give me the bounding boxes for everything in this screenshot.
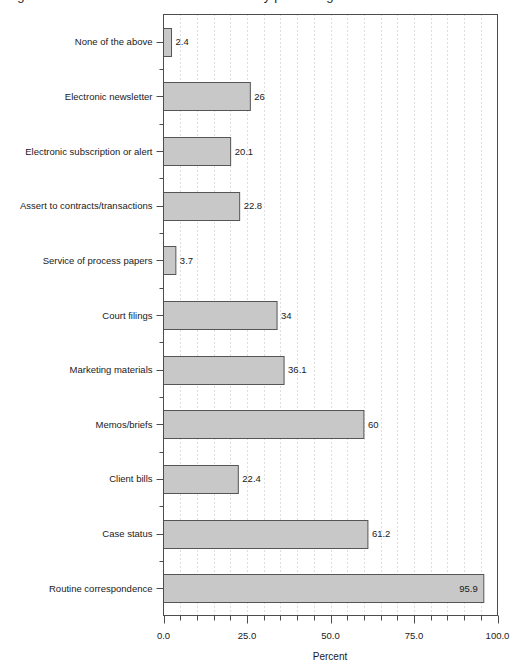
x-axis: 0.025.050.075.0100.0	[157, 616, 510, 641]
x-tick-label: 100.0	[486, 630, 510, 641]
bar	[164, 29, 172, 57]
bar	[164, 521, 368, 549]
category-label: Electronic subscription or alert	[25, 146, 153, 157]
category-label: None of the above	[75, 36, 153, 47]
bar	[164, 575, 484, 603]
bar	[164, 466, 239, 494]
bar	[164, 411, 364, 439]
bar-value-label: 2.4	[176, 36, 189, 47]
bar-value-label: 22.8	[244, 200, 262, 211]
bar	[164, 193, 240, 221]
category-label: Marketing materials	[70, 364, 153, 375]
y-axis-category-labels: None of the aboveElectronic newsletterEl…	[20, 36, 153, 593]
bar-value-label: 20.1	[235, 146, 254, 157]
y-axis-ticks	[157, 43, 164, 589]
category-label: Electronic newsletter	[65, 91, 153, 102]
x-tick-label: 50.0	[321, 630, 340, 641]
category-label: Client bills	[109, 473, 153, 484]
bar	[164, 302, 278, 330]
category-label: Memos/briefs	[95, 419, 152, 430]
category-label: Case status	[102, 528, 152, 539]
bar-value-label: 36.1	[288, 364, 307, 375]
bar-value-label: 34	[281, 310, 292, 321]
x-axis-title: Percent	[313, 651, 348, 662]
bar-value-label: 22.4	[242, 473, 260, 484]
bar-value-label: 60	[368, 419, 379, 430]
x-tick-label: 0.0	[157, 630, 170, 641]
category-label: Court filings	[102, 310, 152, 321]
category-label: Service of process papers	[43, 255, 153, 266]
bar	[164, 357, 285, 385]
x-tick-label: 75.0	[405, 630, 424, 641]
bar-value-label: 61.2	[372, 528, 391, 539]
bar	[164, 247, 176, 275]
chart-page: Figure: Uses of electronic communication…	[0, 0, 523, 671]
bar-value-label: 3.7	[180, 255, 193, 266]
bar-value-label: 26	[254, 91, 265, 102]
bar-value-label: 95.9	[459, 583, 478, 594]
horizontal-bar-chart: None of the aboveElectronic newsletterEl…	[0, 0, 523, 671]
x-tick-label: 25.0	[238, 630, 257, 641]
bar	[164, 138, 231, 166]
category-label: Routine correspondence	[49, 583, 153, 594]
category-label: Assert to contracts/transactions	[20, 200, 153, 211]
bar	[164, 83, 251, 111]
bars	[164, 29, 484, 603]
